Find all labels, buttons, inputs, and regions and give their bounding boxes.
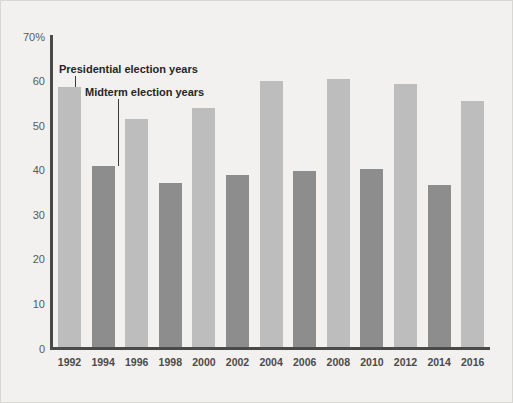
leader-line-presidential-icon xyxy=(75,76,76,87)
bar-1996 xyxy=(125,119,148,347)
plot-area xyxy=(50,35,496,350)
x-axis-tick-labels: 1992199419961998200020022004200620082010… xyxy=(53,356,493,376)
bar-1994 xyxy=(92,166,115,347)
x-axis-tick-label-2016: 2016 xyxy=(451,356,495,368)
annotation-midterm-election-years: Midterm election years xyxy=(85,86,204,98)
y-axis-tick-label: 20 xyxy=(33,253,45,265)
bar-2016 xyxy=(461,101,484,347)
bar-2012 xyxy=(394,84,417,347)
bar-2006 xyxy=(293,171,316,348)
leader-line-midterm-icon xyxy=(118,99,119,166)
bar-2004 xyxy=(260,81,283,347)
bar-2010 xyxy=(360,169,383,347)
bar-chart-figure: 70%6050403020100 19921994199619982000200… xyxy=(0,0,513,403)
y-axis-tick-label: 0 xyxy=(39,343,45,355)
y-axis-tick-label: 60 xyxy=(33,75,45,87)
bar-2008 xyxy=(327,79,350,347)
annotation-presidential-election-years: Presidential election years xyxy=(59,63,198,75)
y-axis-tick-label: 50 xyxy=(33,120,45,132)
bar-1998 xyxy=(159,183,182,347)
x-axis-line xyxy=(50,347,490,350)
bar-1992 xyxy=(58,87,81,347)
bar-2014 xyxy=(428,185,451,347)
y-axis-tick-labels: 70%6050403020100 xyxy=(1,35,45,350)
y-axis-tick-label: 40 xyxy=(33,164,45,176)
y-axis-tick-label: 30 xyxy=(33,209,45,221)
bar-2000 xyxy=(192,108,215,347)
y-axis-tick-label: 70% xyxy=(23,31,45,43)
bars-layer xyxy=(53,35,493,347)
y-axis-tick-label: 10 xyxy=(33,298,45,310)
bar-2002 xyxy=(226,175,249,347)
